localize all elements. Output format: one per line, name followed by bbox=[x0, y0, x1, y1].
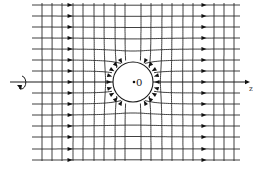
arrow-inward-icon bbox=[152, 93, 157, 97]
arrow-right-icon bbox=[68, 135, 73, 139]
arrow-right-icon bbox=[201, 102, 206, 106]
arrow-right-icon bbox=[201, 91, 206, 95]
field-line bbox=[154, 71, 240, 73]
arrow-right-icon bbox=[201, 69, 206, 73]
equipotential-line bbox=[149, 3, 151, 68]
equipotential-line bbox=[115, 3, 117, 68]
arrow-right-icon bbox=[68, 91, 73, 95]
arrow-inward-icon bbox=[154, 73, 159, 77]
arrow-right-icon bbox=[201, 113, 206, 117]
field-line bbox=[32, 38, 240, 39]
arrow-right-icon bbox=[68, 102, 73, 106]
arrow-right-icon bbox=[68, 69, 73, 73]
arrow-inward-icon bbox=[107, 80, 112, 84]
arrow-right-icon bbox=[201, 25, 206, 29]
axis-arrowhead-icon bbox=[245, 80, 250, 84]
origin-label: 0 bbox=[136, 77, 142, 88]
rotation-arrow-icon bbox=[17, 76, 26, 90]
equipotential-line bbox=[125, 3, 126, 60]
arrow-right-icon bbox=[68, 36, 73, 40]
arrow-inward-icon bbox=[109, 67, 114, 71]
arrow-right-icon bbox=[201, 158, 206, 162]
arrow-right-icon bbox=[68, 14, 73, 18]
arrow-right-icon bbox=[201, 36, 206, 40]
equipotential-line bbox=[140, 3, 141, 60]
axis-label: z bbox=[249, 85, 253, 93]
arrow-inward-icon bbox=[154, 87, 159, 91]
field-line bbox=[32, 101, 121, 104]
field-line bbox=[32, 27, 240, 28]
arrow-right-icon bbox=[68, 3, 73, 7]
arrow-inward-icon bbox=[109, 93, 114, 97]
arrow-inward-icon bbox=[107, 87, 112, 91]
field-line bbox=[154, 91, 240, 93]
field-line bbox=[32, 137, 240, 138]
arrow-right-icon bbox=[201, 58, 206, 62]
field-line bbox=[32, 49, 240, 51]
arrow-right-icon bbox=[68, 124, 73, 128]
arrow-inward-icon bbox=[107, 73, 112, 77]
field-line bbox=[32, 60, 121, 63]
equipotential-line bbox=[125, 104, 126, 161]
equipotential-line bbox=[115, 96, 117, 161]
equipotential-line bbox=[140, 104, 141, 161]
arrow-right-icon bbox=[201, 124, 206, 128]
arrow-right-icon bbox=[68, 113, 73, 117]
arrow-inward-icon bbox=[152, 67, 157, 71]
equipotential-line bbox=[149, 96, 151, 161]
arrow-right-icon bbox=[68, 25, 73, 29]
arrow-right-icon bbox=[201, 47, 206, 51]
field-line bbox=[32, 113, 240, 115]
origin-dot bbox=[133, 81, 136, 84]
arrow-right-icon bbox=[201, 3, 206, 7]
arrow-right-icon bbox=[68, 58, 73, 62]
field-line-diagram: 0 z bbox=[0, 0, 253, 174]
arrow-right-icon bbox=[201, 14, 206, 18]
arrow-right-icon bbox=[68, 158, 73, 162]
arrow-right-icon bbox=[201, 147, 206, 151]
field-line bbox=[32, 125, 240, 126]
arrow-right-icon bbox=[68, 147, 73, 151]
arrow-inward-icon bbox=[155, 80, 160, 84]
arrow-right-icon bbox=[201, 135, 206, 139]
arrow-right-icon bbox=[68, 47, 73, 51]
